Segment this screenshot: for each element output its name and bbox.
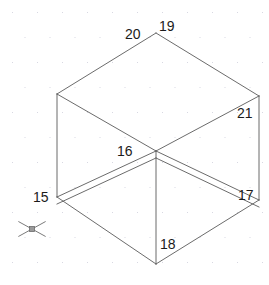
vertex-label-20: 20	[125, 27, 141, 41]
vertex-label-15: 15	[33, 190, 49, 204]
vertex-label-19: 19	[159, 19, 175, 33]
vertex-label-17: 17	[238, 188, 254, 202]
cad-drawing-canvas[interactable]: 20 19 21 16 15 17 18	[0, 0, 269, 285]
vertex-label-18: 18	[160, 237, 176, 251]
crosshair-cursor	[0, 0, 269, 285]
vertex-label-21: 21	[237, 106, 253, 120]
cursor-pickbox	[30, 227, 35, 232]
vertex-label-16: 16	[117, 144, 133, 158]
